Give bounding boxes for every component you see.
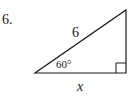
angle-label: 60° (56, 59, 71, 70)
triangle-outline (35, 10, 126, 73)
right-angle-marker (116, 63, 126, 73)
hypotenuse-label: 6 (72, 26, 79, 40)
base-label: x (77, 80, 83, 94)
right-triangle-figure (0, 0, 140, 96)
